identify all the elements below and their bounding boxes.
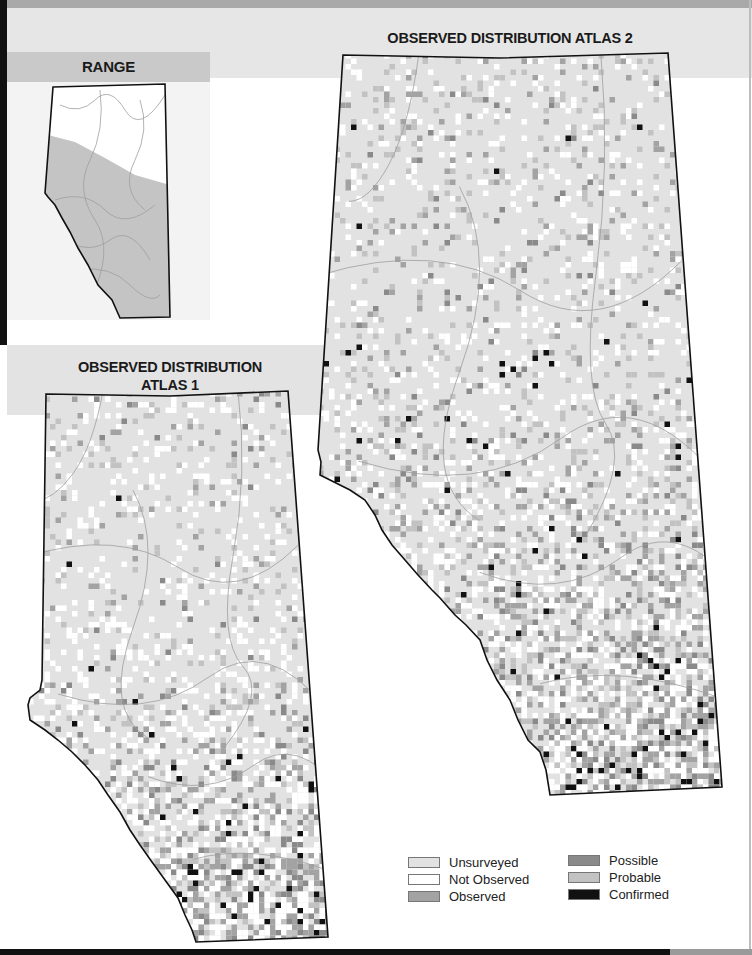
legend-swatch-observed bbox=[408, 891, 440, 902]
legend-label: Not Observed bbox=[449, 872, 529, 887]
legend-item-probable: Probable bbox=[568, 870, 661, 884]
legend-item-observed: Observed bbox=[408, 889, 505, 903]
legend-item-not-observed: Not Observed bbox=[408, 872, 529, 886]
legend-label: Observed bbox=[449, 889, 505, 904]
legend-item-possible: Possible bbox=[568, 853, 658, 867]
atlas1-title: OBSERVED DISTRIBUTION ATLAS 1 bbox=[40, 358, 300, 394]
legend-item-unsurveyed: Unsurveyed bbox=[408, 855, 518, 869]
atlas2-map bbox=[318, 53, 742, 796]
range-title: RANGE bbox=[7, 58, 210, 75]
legend-item-confirmed: Confirmed bbox=[568, 887, 669, 901]
atlas1-title-line2: ATLAS 1 bbox=[40, 376, 300, 394]
legend-label: Probable bbox=[609, 870, 661, 885]
atlas1-title-line1: OBSERVED DISTRIBUTION bbox=[40, 358, 300, 376]
legend-swatch-possible bbox=[568, 855, 600, 866]
atlas2-title: OBSERVED DISTRIBUTION ATLAS 2 bbox=[330, 30, 690, 46]
legend-swatch-unsurveyed bbox=[408, 857, 440, 868]
legend-swatch-probable bbox=[568, 872, 600, 883]
legend-swatch-confirmed bbox=[568, 889, 600, 900]
legend-label: Confirmed bbox=[609, 887, 669, 902]
range-map bbox=[20, 84, 190, 330]
legend-swatch-not-observed bbox=[408, 874, 440, 885]
legend-label: Unsurveyed bbox=[449, 855, 518, 870]
atlas1-map bbox=[28, 391, 343, 947]
maps-canvas bbox=[0, 0, 752, 955]
legend: Unsurveyed Not Observed Observed Possibl… bbox=[400, 850, 700, 910]
legend-label: Possible bbox=[609, 853, 658, 868]
